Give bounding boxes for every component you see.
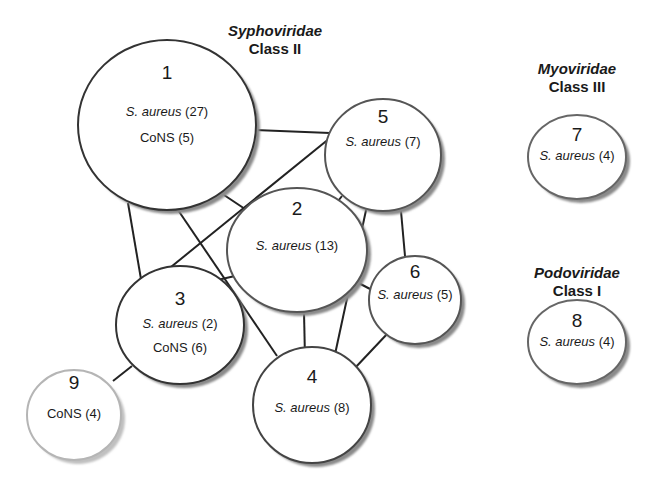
node-4: 4 S. aureus (8): [242, 366, 382, 416]
species: S. aureus: [539, 148, 595, 163]
count: (5): [437, 287, 453, 302]
node-line: S. aureus (2): [142, 316, 217, 332]
node-line: S. aureus (4): [539, 334, 614, 350]
node-9: 9 CoNS (4): [4, 372, 144, 422]
species: S. aureus: [274, 400, 330, 415]
family-name: Myoviridae: [517, 60, 637, 78]
node-id: 5: [378, 106, 389, 128]
count: (27): [185, 104, 208, 119]
node-2: 2 S. aureus (13): [227, 198, 367, 254]
node-line: S. aureus (4): [539, 148, 614, 164]
species: CoNS: [140, 130, 175, 145]
count: (4): [599, 334, 615, 349]
family-name: Syphoviridae: [215, 22, 335, 40]
node-id: 8: [572, 310, 583, 332]
node-id: 9: [69, 372, 80, 394]
node-id: 7: [572, 124, 583, 146]
count: (2): [202, 316, 218, 331]
node-id: 4: [307, 366, 318, 388]
species: S. aureus: [539, 334, 595, 349]
group-podoviridae: Podoviridae Class I: [517, 264, 637, 300]
node-id: 2: [292, 198, 303, 220]
edge-1-3: [128, 203, 142, 285]
family-name: Podoviridae: [517, 264, 637, 282]
node-line: CoNS (5): [140, 130, 194, 146]
species: S. aureus: [256, 238, 312, 253]
count: (7): [405, 134, 421, 149]
count: (5): [178, 130, 194, 145]
count: (4): [85, 406, 101, 421]
node-line: S. aureus (8): [274, 400, 349, 416]
count: (6): [191, 340, 207, 355]
node-id: 6: [410, 261, 421, 283]
node-line: S. aureus (13): [256, 238, 338, 254]
edge-6-4: [354, 333, 388, 369]
species: S. aureus: [377, 287, 433, 302]
node-1: 1 S. aureus (27) CoNS (5): [97, 62, 237, 146]
node-line: S. aureus (27): [126, 104, 208, 120]
group-syphoviridae: Syphoviridae Class II: [215, 22, 335, 58]
group-myoviridae: Myoviridae Class III: [517, 60, 637, 96]
species: S. aureus: [126, 104, 182, 119]
count: (4): [599, 148, 615, 163]
class-name: Class III: [517, 78, 637, 96]
species: CoNS: [153, 340, 188, 355]
node-line: CoNS (4): [47, 406, 101, 422]
class-name: Class I: [517, 282, 637, 300]
node-7: 7 S. aureus (4): [507, 124, 647, 164]
node-5: 5 S. aureus (7): [313, 106, 453, 150]
node-line: S. aureus (5): [377, 287, 452, 303]
node-6: 6 S. aureus (5): [345, 261, 485, 303]
count: (8): [334, 400, 350, 415]
node-id: 1: [162, 62, 173, 84]
node-line: CoNS (6): [153, 340, 207, 356]
node-id: 3: [175, 288, 186, 310]
species: S. aureus: [345, 134, 401, 149]
class-name: Class II: [215, 40, 335, 58]
species: CoNS: [47, 406, 82, 421]
node-8: 8 S. aureus (4): [507, 310, 647, 350]
node-line: S. aureus (7): [345, 134, 420, 150]
species: S. aureus: [142, 316, 198, 331]
count: (13): [315, 238, 338, 253]
node-3: 3 S. aureus (2) CoNS (6): [110, 288, 250, 356]
